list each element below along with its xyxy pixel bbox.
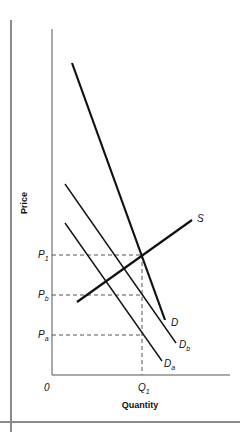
curve-da xyxy=(65,223,162,361)
label-p1: P1 xyxy=(38,249,49,262)
curve-d xyxy=(72,63,165,320)
label-q1: Q1 xyxy=(138,382,150,395)
curve-s xyxy=(77,220,192,302)
label-pa: Pa xyxy=(38,329,49,342)
label-da: Da xyxy=(164,358,175,371)
label-origin: 0 xyxy=(44,382,50,393)
curve-db xyxy=(65,184,176,343)
label-pb: Pb xyxy=(38,289,49,302)
label-s: S xyxy=(197,213,204,224)
x-axis-title: Quantity xyxy=(122,400,159,410)
label-db: Db xyxy=(179,339,190,352)
y-axis-title: Price xyxy=(19,192,29,214)
label-d: D xyxy=(171,317,178,328)
supply-demand-diagram: S D Db Da P1 Pb Pa 0 Q1 Quantity Price xyxy=(0,0,240,432)
